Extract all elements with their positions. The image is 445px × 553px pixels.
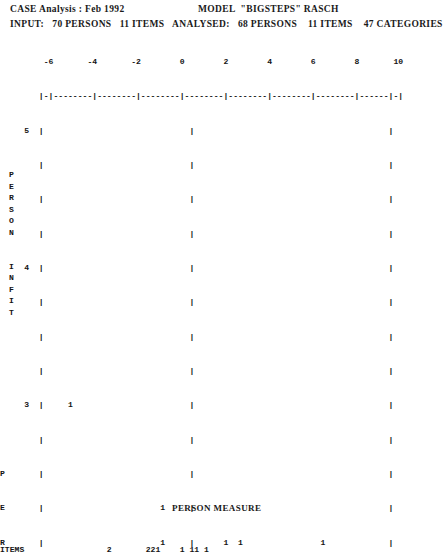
plot-row: | | | — [0, 365, 445, 376]
y-axis-label-char: N — [9, 273, 14, 282]
y-axis-label-char: I — [9, 296, 14, 305]
y-axis-label-char: E — [9, 182, 14, 191]
items-distribution-block: ITEMS 2 221 1 11 1 Q S M S Q — [0, 521, 223, 553]
y-axis-label-char: R — [9, 193, 14, 202]
items-counts-row: ITEMS 2 221 1 11 1 — [0, 544, 223, 553]
y-axis-label-char: S — [9, 205, 14, 214]
plot-row: | | | — [0, 228, 445, 239]
y-axis-label-char: I — [9, 262, 14, 271]
analysed-summary-line: ANALYSED: 68 PERSONS 11 ITEMS 47 CATEGOR… — [172, 19, 443, 29]
x-axis-tick-row-top: -6 -4 -2 0 2 4 6 8 10 — [0, 56, 445, 67]
y-axis-label-char: P — [9, 170, 14, 179]
plot-row: |-|--------|--------|--------|--------|-… — [0, 90, 445, 101]
input-summary-line: INPUT: 70 PERSONS 11 ITEMS — [10, 19, 164, 29]
plot-row: | | | — [0, 296, 445, 307]
plot-character-grid: -6 -4 -2 0 2 4 6 8 10 |-|--------|------… — [0, 33, 445, 553]
x-axis-label: PERSON MEASURE — [172, 503, 261, 513]
plot-row: | | | — [0, 193, 445, 204]
plot-row: | | | — [0, 434, 445, 445]
y-axis-label-char: T — [9, 308, 14, 317]
y-axis-label-char: F — [9, 285, 14, 294]
plot-row: 4 | | | — [0, 262, 445, 273]
plot-row: 5 | | | — [0, 125, 445, 136]
y-axis-label-char: O — [9, 216, 14, 225]
rasch-plot-page: CASE Analysis : Feb 1992 MODEL "BIGSTEPS… — [0, 0, 445, 553]
plot-row: | | | — [0, 159, 445, 170]
model-line: MODEL "BIGSTEPS" RASCH — [198, 4, 339, 14]
plot-row: 3 | 1 | | — [0, 399, 445, 410]
plot-row: P | | | — [0, 468, 445, 479]
analysis-title: CASE Analysis : Feb 1992 — [10, 4, 125, 14]
y-axis-label-char: N — [9, 228, 14, 237]
plot-row: | | | — [0, 331, 445, 342]
